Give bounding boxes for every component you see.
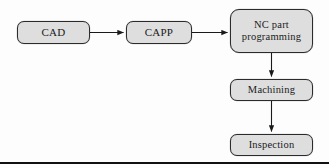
node-inspection[interactable]: Inspection xyxy=(230,134,313,156)
bottom-divider-rule xyxy=(0,162,329,164)
node-capp[interactable]: CAPP xyxy=(126,21,192,44)
node-nc-label-line-2: programming xyxy=(242,31,301,42)
node-machining-label: Machining xyxy=(246,84,297,96)
node-nc-part-programming[interactable]: NC part programming xyxy=(230,9,313,53)
node-cad-label: CAD xyxy=(40,26,68,38)
node-nc-part-programming-label: NC part programming xyxy=(240,19,303,43)
node-cad[interactable]: CAD xyxy=(17,21,90,44)
node-machining[interactable]: Machining xyxy=(230,79,313,101)
node-inspection-label: Inspection xyxy=(247,139,297,151)
flowchart-diagram: CAD CAPP NC part programming Machining I… xyxy=(0,0,329,168)
node-capp-label: CAPP xyxy=(143,26,175,38)
node-nc-label-line-1: NC part xyxy=(254,19,289,30)
